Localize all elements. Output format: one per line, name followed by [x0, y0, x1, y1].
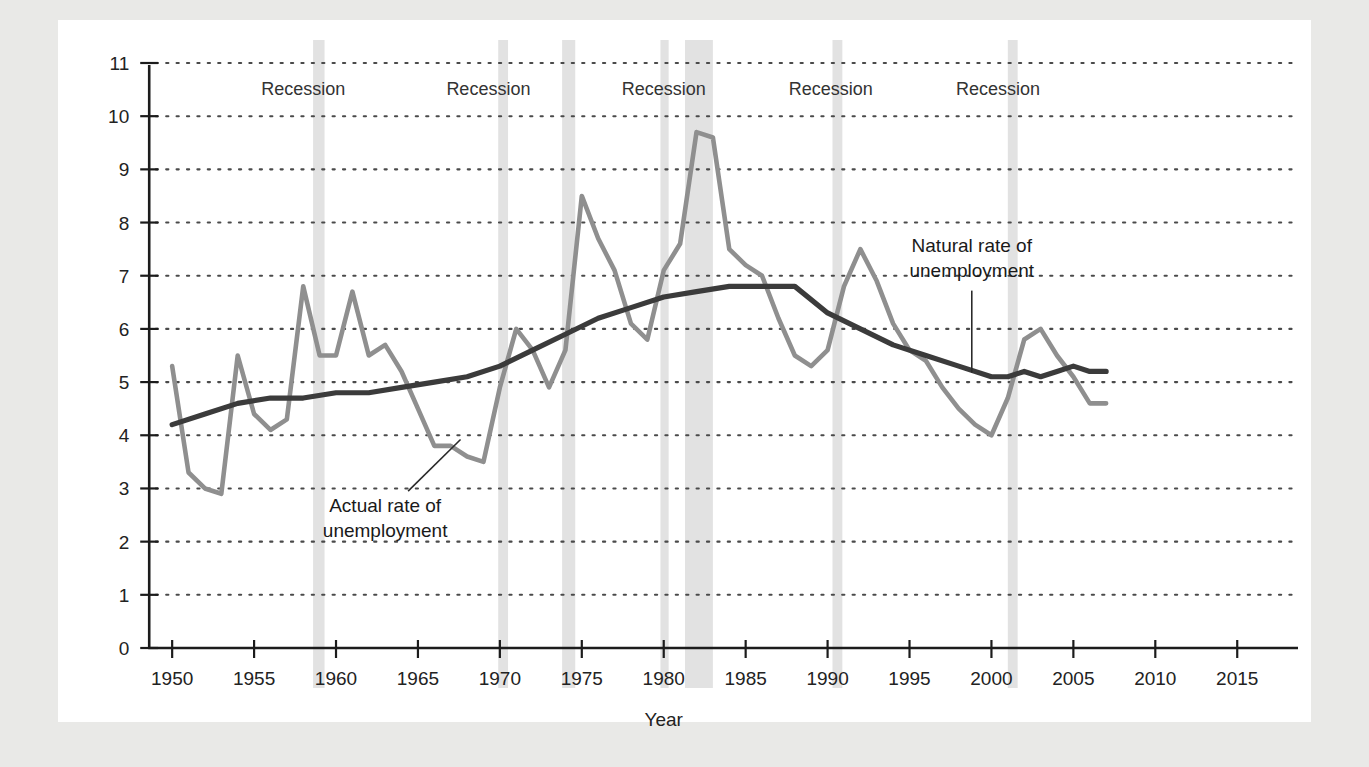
annotation-text-line1: Actual rate of: [329, 495, 442, 516]
x-tick-label: 1990: [806, 668, 848, 689]
x-tick-label: 1965: [397, 668, 439, 689]
y-tick-label: 5: [119, 372, 130, 393]
recession-labels-group: RecessionRecessionRecessionRecessionRece…: [261, 79, 1040, 99]
recession-label: Recession: [261, 79, 345, 99]
unemployment-line-chart: 0123456789101119501955196019651970197519…: [0, 0, 1369, 767]
recession-label: Recession: [789, 79, 873, 99]
chart-svg-wrapper: 0123456789101119501955196019651970197519…: [0, 0, 1369, 767]
annotations-group: Actual rate ofunemploymentNatural rate o…: [323, 235, 1035, 542]
gridlines-group: [156, 63, 1298, 595]
y-tick-label: 2: [119, 532, 130, 553]
annotation-text-line2: unemployment: [323, 520, 448, 541]
x-tick-label: 2015: [1216, 668, 1258, 689]
annotation-text-line1: Natural rate of: [912, 235, 1033, 256]
y-tick-label: 3: [119, 478, 130, 499]
y-tick-label: 6: [119, 319, 130, 340]
y-tick-label: 10: [108, 106, 129, 127]
recession-band: [313, 40, 324, 688]
x-axis-title: Year: [645, 709, 684, 730]
annotation-text-line2: unemployment: [909, 260, 1034, 281]
y-tick-label: 0: [119, 638, 130, 659]
y-tick-label: 8: [119, 213, 130, 234]
x-tick-label: 2005: [1052, 668, 1094, 689]
recession-bands-group: [313, 40, 1018, 688]
recession-band: [833, 40, 843, 688]
x-tick-label: 1995: [888, 668, 930, 689]
x-tick-label: 1975: [561, 668, 603, 689]
y-tick-label: 7: [119, 266, 130, 287]
y-tick-label: 11: [109, 53, 129, 74]
figure-container: 0123456789101119501955196019651970197519…: [0, 0, 1369, 767]
recession-band: [660, 40, 668, 688]
recession-label: Recession: [446, 79, 530, 99]
x-tick-label: 1950: [151, 668, 193, 689]
x-tick-label: 1985: [725, 668, 767, 689]
x-tick-label: 1970: [479, 668, 521, 689]
x-tick-label: 1960: [315, 668, 357, 689]
y-tick-label: 9: [119, 159, 130, 180]
recession-band: [562, 40, 575, 688]
y-tick-label: 1: [119, 585, 130, 606]
recession-label: Recession: [956, 79, 1040, 99]
data-series-group: [172, 132, 1106, 494]
x-tick-label: 1980: [643, 668, 685, 689]
recession-label: Recession: [622, 79, 706, 99]
x-tick-label: 1955: [233, 668, 275, 689]
axis-labels-group: 0123456789101119501955196019651970197519…: [108, 53, 1258, 730]
y-tick-label: 4: [119, 425, 130, 446]
x-tick-label: 2010: [1134, 668, 1176, 689]
actual-rate-line: [172, 132, 1106, 494]
natural-rate-line: [172, 286, 1106, 424]
x-tick-label: 2000: [970, 668, 1012, 689]
